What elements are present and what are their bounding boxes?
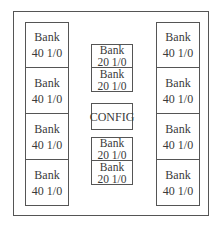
bank-label: Bank xyxy=(34,121,59,137)
bank-io: 20 1/0 xyxy=(97,80,126,92)
bank-40-left-3: Bank 40 1/0 xyxy=(25,114,69,160)
center-top-banks: Bank 20 1/0 Bank 20 1/0 xyxy=(91,44,133,92)
bank-io: 40 1/0 xyxy=(32,45,62,61)
bank-io: 40 1/0 xyxy=(32,91,62,107)
bank-label: Bank xyxy=(34,29,59,45)
config-label: CONFIG xyxy=(90,109,135,125)
bank-20-center-4: Bank 20 1/0 xyxy=(91,161,133,185)
bank-label: Bank xyxy=(165,29,190,45)
bank-label: Bank xyxy=(34,167,59,183)
bank-io: 40 1/0 xyxy=(163,91,193,107)
bank-40-right-1: Bank 40 1/0 xyxy=(156,22,200,68)
bank-40-right-2: Bank 40 1/0 xyxy=(156,68,200,114)
bank-io: 20 1/0 xyxy=(97,173,126,185)
bank-label: Bank xyxy=(165,121,190,137)
bank-io: 20 1/0 xyxy=(97,56,126,68)
bank-40-left-1: Bank 40 1/0 xyxy=(25,22,69,68)
bank-label: Bank xyxy=(100,44,124,56)
bank-io: 40 1/0 xyxy=(163,137,193,153)
bank-40-left-4: Bank 40 1/0 xyxy=(25,160,69,206)
config-block-wrapper: CONFIG xyxy=(91,103,133,130)
bank-io: 40 1/0 xyxy=(32,137,62,153)
config-block: CONFIG xyxy=(91,103,133,130)
bank-20-center-1: Bank 20 1/0 xyxy=(91,44,133,68)
bank-label: Bank xyxy=(100,68,124,80)
bank-io: 40 1/0 xyxy=(32,183,62,199)
left-bank-column: Bank 40 1/0 Bank 40 1/0 Bank 40 1/0 Bank… xyxy=(25,22,69,206)
bank-io: 40 1/0 xyxy=(163,45,193,61)
bank-label: Bank xyxy=(100,137,124,149)
bank-io: 20 1/0 xyxy=(97,149,126,161)
bank-label: Bank xyxy=(165,167,190,183)
bank-20-center-2: Bank 20 1/0 xyxy=(91,68,133,92)
bank-40-right-3: Bank 40 1/0 xyxy=(156,114,200,160)
bank-40-left-2: Bank 40 1/0 xyxy=(25,68,69,114)
bank-label: Bank xyxy=(100,161,124,173)
bank-label: Bank xyxy=(165,75,190,91)
center-bottom-banks: Bank 20 1/0 Bank 20 1/0 xyxy=(91,137,133,185)
bank-20-center-3: Bank 20 1/0 xyxy=(91,137,133,161)
right-bank-column: Bank 40 1/0 Bank 40 1/0 Bank 40 1/0 Bank… xyxy=(156,22,200,206)
bank-40-right-4: Bank 40 1/0 xyxy=(156,160,200,206)
bank-io: 40 1/0 xyxy=(163,183,193,199)
bank-label: Bank xyxy=(34,75,59,91)
